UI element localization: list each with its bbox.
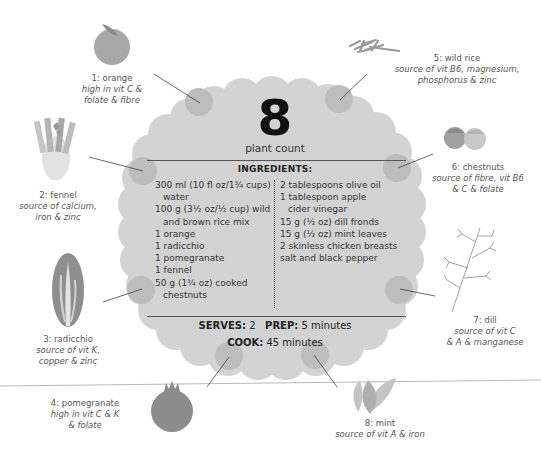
ingredient-line: 1 orange	[155, 228, 275, 240]
plant-desc: copper & zinc	[13, 356, 123, 367]
plant-count-label: plant count	[145, 142, 405, 154]
plant-name: 6: chestnuts	[415, 162, 541, 173]
ingredient-line: 2 skinless chicken breasts	[280, 240, 405, 252]
ingredient-line: cider vinegar	[280, 203, 405, 215]
plant-desc: source of vit B6, magnesium,	[377, 64, 537, 75]
ingredient-line: 100 g (3½ oz/½ cup) wild	[155, 203, 275, 215]
plant-desc: source of vit C	[430, 326, 540, 337]
column-divider	[274, 180, 275, 308]
top-divider	[147, 160, 406, 161]
plant-desc: source of calcium,	[3, 201, 113, 212]
plant-label-orange: 1: orange high in vit C & folate & fibre	[62, 73, 162, 106]
cook-label: COOK:	[227, 337, 263, 348]
plant-name: 7: dill	[430, 315, 540, 326]
ingredient-line: chestnuts	[155, 289, 275, 301]
bottom-divider	[147, 316, 406, 317]
plant-name: 3: radicchio	[13, 334, 123, 345]
plant-label-chestnuts: 6: chestnuts source of fibre, vit B6 & C…	[415, 162, 541, 195]
plant-desc: phosphorus & zinc	[377, 75, 537, 86]
serves-prep-line: SERVES: 2 PREP: 5 minutes	[150, 320, 400, 331]
ingredient-line: 2 tablespoons olive oil	[280, 179, 405, 191]
serves-label: SERVES:	[198, 320, 246, 331]
mint-icon	[353, 378, 396, 414]
plant-desc: & A & manganese	[430, 337, 540, 348]
orange-icon	[94, 24, 130, 65]
fennel-icon	[34, 118, 76, 180]
ingredient-line: water	[155, 191, 275, 203]
ingredient-line: 50 g (1¾ oz) cooked	[155, 277, 275, 289]
plant-desc: high in vit C & K	[30, 409, 140, 420]
ingredients-left-column: 300 ml (10 fl oz/1¾ cups) water 100 g (3…	[155, 179, 275, 301]
plant-label-fennel: 2: fennel source of calcium, iron & zinc	[3, 190, 113, 223]
chestnuts-icon	[444, 127, 486, 150]
plant-count-block: 8 plant count	[145, 92, 405, 154]
dill-icon	[444, 228, 496, 312]
plant-desc: high in vit C &	[62, 84, 162, 95]
plant-desc: folate & fibre	[62, 95, 162, 106]
plant-desc: & C & folate	[415, 184, 541, 195]
marker-dill	[385, 276, 413, 304]
ingredient-line: 15 g (½ oz) mint leaves	[280, 228, 405, 240]
serves-value: 2	[249, 320, 255, 331]
plant-label-mint: 8: mint source of vit A & iron	[320, 418, 440, 440]
plant-name: 8: mint	[320, 418, 440, 429]
pomegranate-icon	[151, 381, 193, 432]
ingredient-line: 1 pomegranate	[155, 252, 275, 264]
ingredient-line: 15 g (½ oz) dill fronds	[280, 216, 405, 228]
ingredient-line: 1 tablespoon apple	[280, 191, 405, 203]
ingredient-line: and brown rice mix	[155, 216, 275, 228]
ingredients-title: INGREDIENTS:	[150, 164, 400, 174]
plant-count-number: 8	[145, 92, 405, 144]
plant-name: 4: pomegranate	[30, 398, 140, 409]
plant-desc: source of fibre, vit B6	[415, 173, 541, 184]
plant-desc: & folate	[30, 420, 140, 431]
page-baseline	[0, 380, 541, 386]
ingredient-line: 1 fennel	[155, 264, 275, 276]
prep-value: 5 minutes	[301, 320, 351, 331]
prep-label: PREP:	[265, 320, 298, 331]
marker-radicchio	[127, 276, 155, 304]
recipe-infographic: 8 plant count INGREDIENTS: 300 ml (10 fl…	[0, 0, 541, 456]
radicchio-icon	[52, 253, 84, 327]
plant-name: 1: orange	[62, 73, 162, 84]
cook-value: 45 minutes	[266, 337, 322, 348]
ingredient-line: 1 radicchio	[155, 240, 275, 252]
ingredients-right-column: 2 tablespoons olive oil 1 tablespoon app…	[280, 179, 405, 264]
ingredient-line: salt and black pepper	[280, 252, 405, 264]
plant-desc: source of vit A & iron	[320, 429, 440, 440]
plant-label-radicchio: 3: radicchio source of vit K, copper & z…	[13, 334, 123, 367]
cook-line: COOK: 45 minutes	[150, 337, 400, 348]
plant-desc: source of vit K,	[13, 345, 123, 356]
plant-name: 2: fennel	[3, 190, 113, 201]
plant-name: 5: wild rice	[377, 53, 537, 64]
wild-rice-icon	[350, 40, 399, 52]
plant-desc: iron & zinc	[3, 212, 113, 223]
plant-label-pomegranate: 4: pomegranate high in vit C & K & folat…	[30, 398, 140, 431]
plant-label-wild-rice: 5: wild rice source of vit B6, magnesium…	[377, 53, 537, 86]
plant-label-dill: 7: dill source of vit C & A & manganese	[430, 315, 540, 348]
ingredient-line: 300 ml (10 fl oz/1¾ cups)	[155, 179, 275, 191]
